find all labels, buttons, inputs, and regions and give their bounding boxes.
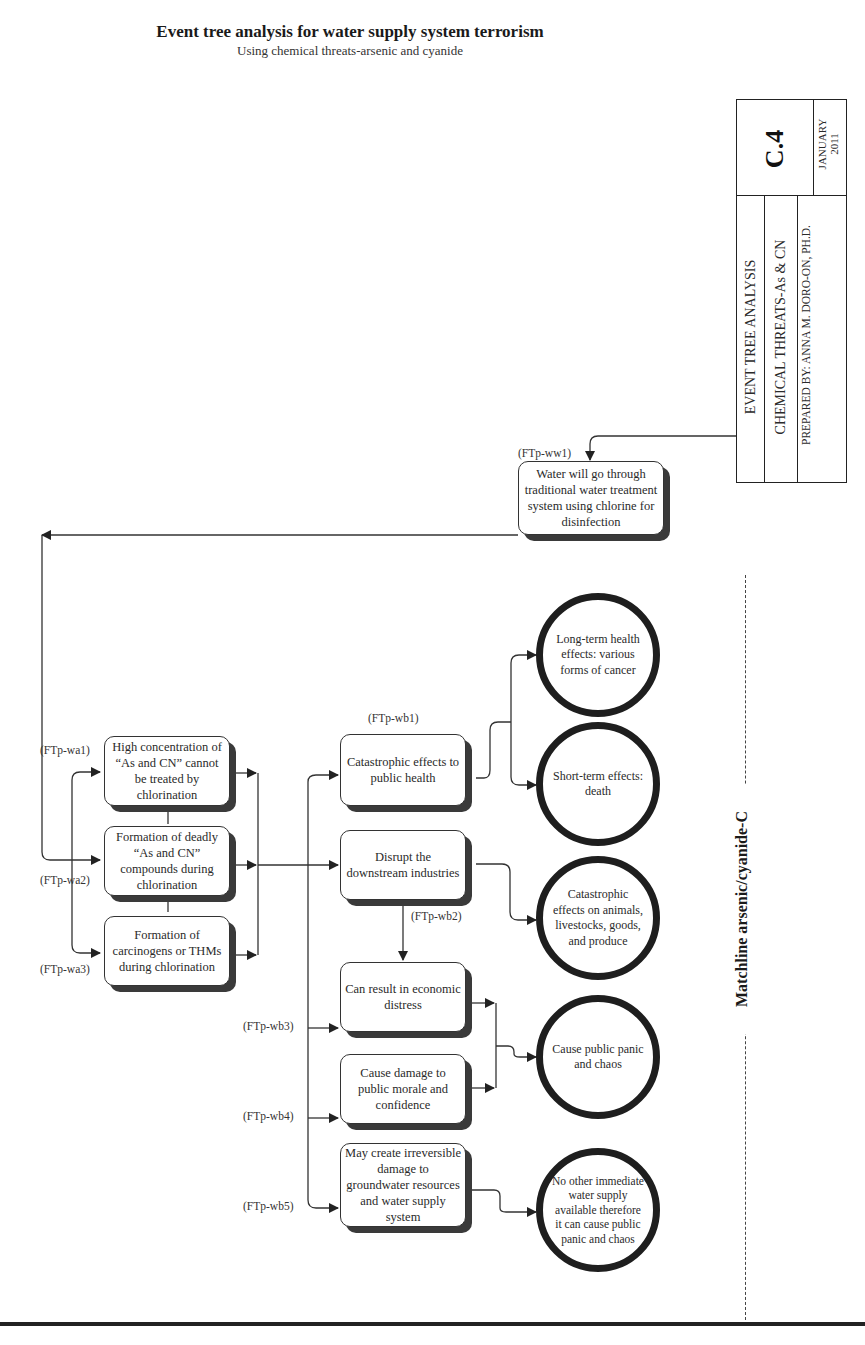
outcome-no-water-supply: No other immediate water supply availabl… xyxy=(536,1148,660,1272)
node-wb1: Catastrophic effects to public health xyxy=(340,734,466,806)
node-wb5-text: May create irreversible damage to ground… xyxy=(345,1145,461,1225)
node-wb5: May create irreversible damage to ground… xyxy=(340,1143,466,1227)
outcome-long-term-health: Long-term health effects: various forms … xyxy=(536,593,660,717)
node-wb4-text: Cause damage to public morale and confid… xyxy=(345,1065,461,1113)
code-ftp-ww1: (FTp-ww1) xyxy=(518,447,571,459)
code-ftp-wb4: (FTp-wb4) xyxy=(243,1110,293,1122)
node-wb3-text: Can result in economic distress xyxy=(345,981,461,1013)
node-wb1-text: Catastrophic effects to public health xyxy=(345,754,461,786)
code-ftp-wb2: (FTp-wb2) xyxy=(411,910,461,922)
outcome-public-panic: Cause public panic and chaos xyxy=(536,995,660,1119)
matchline-label: Matchline arsenic/cyanide-C xyxy=(733,784,751,1034)
node-ww1-text: Water will go through traditional water … xyxy=(523,466,659,530)
node-wa1: High concentration of “As and CN” cannot… xyxy=(104,736,230,806)
outcome-animals-livestock: Catastrophic effects on animals, livesto… xyxy=(536,856,660,980)
outcome-text: Short-term effects: death xyxy=(551,769,645,800)
code-ftp-wb5: (FTp-wb5) xyxy=(243,1200,293,1212)
code-ftp-wa2: (FTp-wa2) xyxy=(40,874,90,886)
node-disrupt-text: Disrupt the downstream industries xyxy=(345,849,461,881)
node-wb4: Cause damage to public morale and confid… xyxy=(340,1054,466,1124)
node-wa1-text: High concentration of “As and CN” cannot… xyxy=(109,739,225,803)
outcome-text: Long-term health effects: various forms … xyxy=(551,632,645,679)
bottom-rule xyxy=(0,1322,865,1326)
node-wa3: Formation of carcinogens or THMs during … xyxy=(104,916,230,986)
node-wa3-text: Formation of carcinogens or THMs during … xyxy=(109,927,225,975)
outcome-text: Catastrophic effects on animals, livesto… xyxy=(551,887,645,949)
node-ww1: Water will go through traditional water … xyxy=(518,461,664,535)
node-disrupt-industries: Disrupt the downstream industries xyxy=(340,830,466,900)
node-wb3: Can result in economic distress xyxy=(340,962,466,1032)
code-ftp-wa3: (FTp-wa3) xyxy=(40,963,90,975)
node-wa2: Formation of deadly “As and CN” compound… xyxy=(104,826,230,896)
outcome-text: No other immediate water supply availabl… xyxy=(551,1174,645,1247)
outcome-text: Cause public panic and chaos xyxy=(551,1042,645,1073)
outcome-short-term-death: Short-term effects: death xyxy=(536,722,660,846)
code-ftp-wb3: (FTp-wb3) xyxy=(243,1020,293,1032)
code-ftp-wa1: (FTp-wa1) xyxy=(40,744,90,756)
code-ftp-wb1: (FTp-wb1) xyxy=(368,712,418,724)
node-wa2-text: Formation of deadly “As and CN” compound… xyxy=(109,829,225,893)
